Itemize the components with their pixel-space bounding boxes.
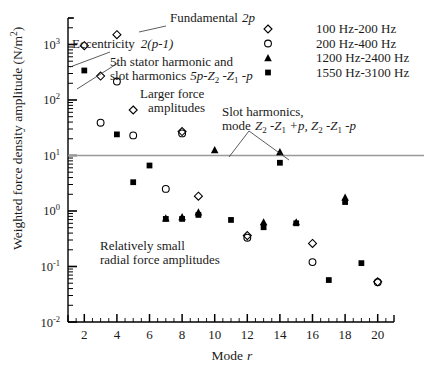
data-point — [260, 218, 268, 225]
y-tick-label: 101 — [43, 147, 60, 163]
annotation-eccentricity-text: Eccentricity — [72, 36, 135, 51]
svg-text:Eccentricity2(p-1): Eccentricity2(p-1) — [72, 36, 173, 51]
series-2 — [162, 146, 349, 225]
y-axis-label-post: ) — [10, 27, 25, 32]
data-point — [130, 132, 137, 139]
legend: 100 Hz-200 Hz200 Hz-400 Hz1200 Hz-2400 H… — [264, 21, 409, 80]
annotation-stator-line2-b: -Z — [219, 68, 235, 83]
x-tick-label: 2 — [81, 327, 88, 342]
legend-label-0: 100 Hz-200 Hz — [316, 21, 396, 36]
y-tick-label: 100 — [43, 202, 60, 218]
leader-slot-left — [229, 131, 249, 157]
data-point — [162, 186, 169, 193]
annotation-larger-line1: Larger force — [140, 86, 205, 101]
x-tick-label: 16 — [306, 327, 320, 342]
y-tick-label: 102 — [43, 91, 60, 107]
data-point — [163, 216, 169, 222]
legend-label-2: 1200 Hz-2400 Hz — [316, 50, 409, 65]
data-point — [309, 259, 316, 266]
annotation-slot-b: -Z — [267, 118, 283, 133]
annotation-larger-line2: amplitudes — [148, 100, 205, 115]
data-point — [97, 119, 104, 126]
data-point — [261, 224, 267, 230]
legend-label-1: 200 Hz-400 Hz — [316, 36, 396, 51]
data-point — [179, 216, 185, 222]
annotation-fundamental-text: Fundamental — [170, 10, 238, 25]
y-tick-label: 10-1 — [40, 258, 60, 274]
annotation-eccentricity-var: 2(p-1) — [141, 36, 174, 51]
x-tick-label: 14 — [273, 327, 287, 342]
data-point — [342, 199, 348, 205]
annotation-slot-line2-pre: mode — [222, 118, 251, 133]
svg-text:Moder: Moder — [212, 348, 254, 363]
annotation-larger-force: Larger force amplitudes — [140, 86, 205, 115]
annotation-small-line1: Relatively small — [100, 238, 185, 253]
scatter-plot-canvas: Weighted force density amplitude (N/m2) … — [0, 0, 424, 376]
annotation-stator-line2-c: -p — [239, 68, 254, 83]
data-point — [374, 279, 381, 286]
svg-text:Fundamental2p: Fundamental2p — [170, 10, 255, 25]
y-axis-label: Weighted force density amplitude (N/m2) — [9, 27, 25, 250]
annotation-stator-line1: 5th stator harmonic and — [110, 54, 234, 69]
annotation-slot-f: -p — [342, 118, 357, 133]
annotation-fundamental-var: 2p — [242, 10, 256, 25]
annotation-slot-c: +p, — [286, 118, 311, 133]
x-axis-label-var: r — [247, 348, 253, 363]
svg-text:slot harmonics5p-Z2 -Z1 -p: slot harmonics5p-Z2 -Z1 -p — [110, 68, 253, 85]
x-tick-label: 10 — [208, 327, 221, 342]
x-tick-label: 18 — [339, 327, 352, 342]
annotation-stator-harmonic: 5th stator harmonic and slot harmonics5p… — [110, 54, 253, 85]
data-point — [309, 239, 317, 247]
y-tick-label: 103 — [43, 36, 60, 52]
annotation-small-line2: radial force amplitudes — [100, 252, 220, 267]
data-point — [359, 260, 365, 266]
annotation-slot-line1: Slot harmonics, — [222, 104, 304, 119]
annotation-fundamental: Fundamental2p — [170, 10, 255, 25]
figure-chart: Weighted force density amplitude (N/m2) … — [0, 0, 424, 376]
annotation-stator-line2-pre: slot harmonics — [110, 68, 186, 83]
x-tick-label: 8 — [179, 327, 186, 342]
y-tick-label: 10-2 — [40, 314, 60, 330]
legend-label-3: 1550 Hz-3100 Hz — [316, 65, 409, 80]
data-point — [277, 160, 283, 166]
data-point — [326, 277, 332, 283]
data-point — [196, 212, 202, 218]
svg-text:Weighted force density amplitu: Weighted force density amplitude (N/m2) — [9, 27, 25, 250]
y-axis-label-text: Weighted force density amplitude (N/m — [10, 35, 25, 250]
data-point — [211, 146, 219, 153]
leader-fundamental — [139, 26, 166, 32]
legend-marker-0 — [264, 25, 272, 33]
x-tick-label: 6 — [146, 327, 153, 342]
data-point — [129, 106, 137, 114]
legend-marker-3 — [265, 70, 271, 76]
x-axis-label: Moder — [212, 348, 254, 363]
annotation-stator-line2-a: 5p-Z — [190, 68, 215, 83]
data-point — [147, 163, 153, 169]
legend-marker-1 — [265, 40, 272, 47]
annotation-slot-harmonics: Slot harmonics, modeZ2 -Z1 +p, Z2 -Z1 -p — [222, 104, 357, 135]
data-point — [293, 220, 299, 226]
data-point — [194, 192, 202, 200]
x-axis-label-text: Mode — [212, 348, 244, 363]
annotation-small-radial: Relatively small radial force amplitudes — [100, 238, 220, 267]
x-tick-label: 20 — [371, 327, 384, 342]
annotation-slot-e: -Z — [323, 118, 339, 133]
data-point — [81, 68, 87, 74]
leader-eccentricity — [70, 52, 110, 67]
data-point — [228, 217, 234, 223]
legend-marker-2 — [264, 54, 272, 61]
x-tick-label: 12 — [241, 327, 254, 342]
data-point — [114, 132, 120, 138]
data-point — [130, 179, 136, 185]
annotation-eccentricity: Eccentricity2(p-1) — [72, 36, 173, 51]
svg-text:modeZ2 -Z1 +p, Z2 -Z1 -p: modeZ2 -Z1 +p, Z2 -Z1 -p — [222, 118, 357, 135]
x-tick-label: 4 — [114, 327, 121, 342]
